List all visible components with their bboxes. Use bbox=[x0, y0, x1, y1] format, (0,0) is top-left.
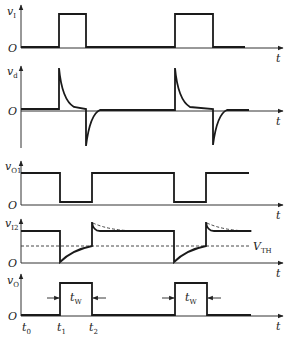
x-axis-label: t bbox=[276, 209, 281, 222]
monostable-output-waveform bbox=[21, 283, 251, 315]
monostable-timing-diagram: vI O t vd O t vO1 O t vI2 O t VTH vO bbox=[0, 0, 288, 340]
origin-label: O bbox=[8, 257, 17, 270]
panel-vd: vd O t bbox=[7, 65, 283, 148]
y-axis-label: vd bbox=[7, 65, 18, 80]
input-pulse-waveform bbox=[21, 14, 245, 47]
origin-label: O bbox=[8, 310, 17, 323]
origin-label: O bbox=[8, 42, 17, 55]
y-axis-label: vO1 bbox=[5, 160, 21, 175]
time-mark-t1: t1 bbox=[57, 321, 66, 336]
panel-vo1: vO1 O t bbox=[5, 160, 283, 222]
x-axis-label: t bbox=[276, 320, 281, 333]
time-mark-t0: t0 bbox=[22, 321, 31, 336]
y-axis-label: vI bbox=[7, 5, 16, 20]
origin-label: O bbox=[8, 105, 17, 118]
capacitor-charge-asymptote bbox=[93, 223, 252, 231]
threshold-label: VTH bbox=[253, 240, 272, 255]
differentiated-spike-waveform bbox=[21, 68, 249, 146]
gate-output-waveform bbox=[21, 173, 249, 202]
y-axis-label: vI2 bbox=[5, 217, 18, 232]
capacitor-voltage-waveform bbox=[21, 222, 251, 262]
panel-vi: vI O t bbox=[7, 5, 283, 65]
origin-label: O bbox=[8, 199, 17, 212]
pulse-width-label: tW bbox=[185, 291, 197, 306]
x-axis-label: t bbox=[276, 115, 281, 128]
y-axis-label: vO bbox=[7, 274, 19, 289]
x-axis-label: t bbox=[276, 52, 281, 65]
panel-vo: vO O t tW tW t0 t1 t2 bbox=[7, 274, 283, 336]
panel-vi2: vI2 O t VTH bbox=[5, 217, 283, 280]
time-mark-t2: t2 bbox=[89, 321, 98, 336]
x-axis-label: t bbox=[276, 267, 281, 280]
pulse-width-label: tW bbox=[70, 291, 82, 306]
